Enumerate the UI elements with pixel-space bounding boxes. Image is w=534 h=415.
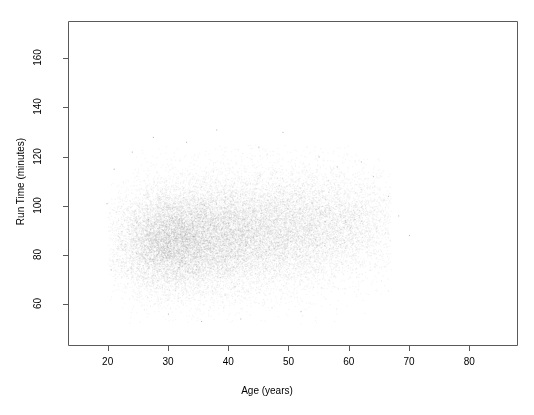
y-axis-title: Run Time (minutes) bbox=[15, 102, 26, 262]
y-tick-label: 100 bbox=[32, 185, 43, 225]
x-tick-label: 60 bbox=[329, 356, 369, 367]
x-tick-label: 50 bbox=[268, 356, 308, 367]
scatter-plot-figure: Age (years) Run Time (minutes) 203040506… bbox=[0, 0, 534, 415]
y-tick-label: 60 bbox=[32, 283, 43, 323]
x-tick-label: 30 bbox=[148, 356, 188, 367]
y-tick-label: 160 bbox=[32, 38, 43, 78]
y-tick-label: 80 bbox=[32, 234, 43, 274]
x-tick-label: 70 bbox=[389, 356, 429, 367]
x-tick-label: 40 bbox=[208, 356, 248, 367]
scatter-plot-canvas bbox=[0, 0, 534, 415]
y-tick-label: 140 bbox=[32, 87, 43, 127]
y-tick-label: 120 bbox=[32, 136, 43, 176]
x-tick-label: 20 bbox=[88, 356, 128, 367]
x-tick-label: 80 bbox=[449, 356, 489, 367]
x-axis-title: Age (years) bbox=[0, 385, 534, 396]
